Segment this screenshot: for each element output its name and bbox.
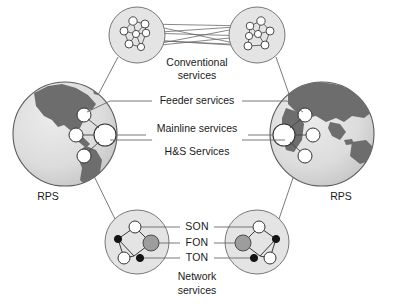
cluster-node <box>261 41 269 49</box>
globe-right-group: RPS <box>270 82 374 204</box>
network-node-fon <box>143 235 159 251</box>
globe-right-hs-node <box>298 149 312 163</box>
network-node-son <box>253 221 265 233</box>
diagram-canvas: Conventional services <box>0 0 393 304</box>
conventional-services-group: Conventional services <box>109 7 285 81</box>
mainline-services-label: Mainline services <box>157 122 238 134</box>
network-node-ton-upper <box>114 235 121 242</box>
cluster-node <box>129 17 137 25</box>
network-services-group: SON FON TON Network services <box>105 210 289 296</box>
connector-globe-right-to-top-cluster <box>276 57 290 97</box>
network-node-son-lower <box>264 252 276 264</box>
network-node-son <box>129 221 141 233</box>
cluster-node <box>132 30 139 37</box>
network-services-label-line2: services <box>178 284 217 296</box>
fon-label: FON <box>186 236 209 248</box>
connector-globe-right-to-bottom-cluster <box>279 172 295 219</box>
cluster-node <box>254 30 261 37</box>
rps-label-right: RPS <box>330 190 352 202</box>
connector-globe-left-to-top-cluster <box>97 57 118 97</box>
rps-label-left: RPS <box>37 190 59 202</box>
globe-right-hub-node <box>273 124 295 146</box>
connector-globe-left-to-bottom-cluster <box>92 172 115 219</box>
conventional-services-label-line2: services <box>178 69 217 81</box>
network-node-son-lower <box>118 252 130 264</box>
globe-right-mainline-node <box>306 128 320 142</box>
cluster-node <box>257 17 265 25</box>
network-services-diagram: Conventional services <box>0 0 393 304</box>
globe-left-hub-node <box>94 124 116 146</box>
cluster-node <box>246 22 254 30</box>
ton-label: TON <box>186 251 209 263</box>
network-services-label-line1: Network <box>178 270 217 282</box>
cluster-node <box>245 32 252 39</box>
cluster-node <box>125 40 133 48</box>
cluster-node <box>137 43 144 50</box>
globe-left-group: RPS <box>13 82 117 202</box>
hs-services-label: H&S Services <box>165 145 230 157</box>
globe-left-hs-node <box>77 149 91 163</box>
feeder-services-label: Feeder services <box>160 94 235 106</box>
cluster-node <box>244 42 252 50</box>
globe-left-mainline-node <box>69 128 83 142</box>
cluster-node <box>120 27 128 35</box>
network-node-ton-upper <box>272 235 279 242</box>
network-node-fon <box>235 235 251 251</box>
conventional-services-label-line1: Conventional <box>166 56 227 68</box>
network-node-ton <box>250 254 257 261</box>
cluster-node <box>142 29 150 37</box>
network-node-ton <box>136 254 143 261</box>
son-label: SON <box>185 220 208 232</box>
connector-lines <box>92 57 295 219</box>
cluster-node <box>141 20 149 28</box>
cluster-node <box>266 27 274 35</box>
